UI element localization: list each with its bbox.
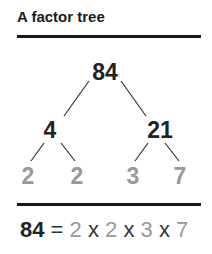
tree-node-left: 4 — [44, 119, 57, 142]
tree-leaf: 3 — [127, 165, 140, 188]
bottom-divider — [17, 203, 201, 206]
factor: 3 — [141, 217, 153, 242]
equals-sign: = — [51, 217, 64, 242]
tree-node-right: 21 — [147, 119, 173, 142]
times-sign: x — [88, 217, 99, 242]
factor: 2 — [105, 217, 117, 242]
times-sign: x — [123, 217, 134, 242]
factor: 7 — [176, 217, 188, 242]
tree-leaf: 7 — [174, 165, 187, 188]
tree-leaf: 2 — [71, 165, 84, 188]
factor: 2 — [70, 217, 82, 242]
tree-root: 84 — [92, 61, 118, 84]
times-sign: x — [159, 217, 170, 242]
equation-lhs: 84 — [20, 217, 44, 242]
tree-branches — [0, 0, 212, 254]
factorization-equation: 84 = 2 x 2 x 3 x 7 — [20, 219, 188, 241]
tree-leaf: 2 — [22, 165, 35, 188]
